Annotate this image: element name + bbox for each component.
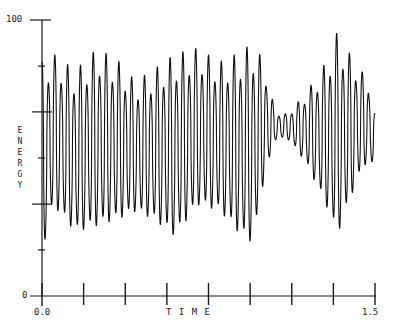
energy-time-chart: [0, 0, 393, 324]
x-right-label: 1.5: [362, 307, 378, 317]
x-ticks: [42, 283, 375, 306]
y-bottom-label: 0: [22, 290, 27, 300]
y-top-label: 100: [6, 14, 22, 24]
energy-series-line: [42, 33, 375, 241]
x-axis-title: T I M E: [166, 307, 211, 317]
x-left-label: 0.0: [34, 307, 50, 317]
y-axis-title: ENERGY: [13, 125, 27, 191]
